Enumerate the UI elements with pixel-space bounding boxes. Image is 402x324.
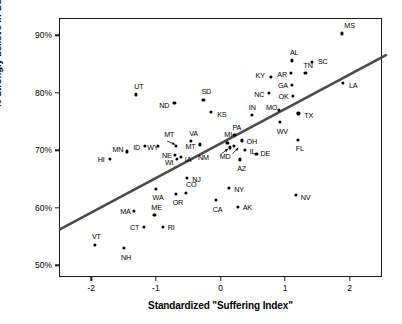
data-point-label: KS xyxy=(217,111,226,118)
x-tick-mark xyxy=(91,277,92,281)
data-point-label: IN xyxy=(249,104,256,111)
data-point-label: WV xyxy=(277,128,288,135)
data-point-label: MN xyxy=(113,146,124,153)
data-point-label: SC xyxy=(318,58,328,65)
data-point-label: MA xyxy=(120,208,130,215)
data-point-label: NH xyxy=(121,254,131,261)
y-tick-label: 90% xyxy=(26,30,52,40)
data-point-label: MT xyxy=(186,143,196,150)
data-point-label: WY xyxy=(147,144,158,151)
data-point-label: MT xyxy=(164,131,174,138)
data-point-label: PA xyxy=(232,124,241,131)
data-point-label: LA xyxy=(349,82,358,89)
y-tick-label: 50% xyxy=(26,260,52,270)
data-point-label: GA xyxy=(278,82,288,89)
x-tick-label: 2 xyxy=(347,283,352,293)
data-point-label: IA xyxy=(185,156,192,163)
data-point-label: KY xyxy=(256,72,265,79)
y-tick-label: 70% xyxy=(26,145,52,155)
data-point-label: OH xyxy=(247,138,257,145)
trendline-path xyxy=(59,55,387,230)
data-point-label: AK xyxy=(243,204,252,211)
plot-area: MSALSCARTNKYGALANCOKSDUTNDMOKSTXINWVPAVA… xyxy=(60,19,381,276)
data-point-label: CO xyxy=(186,181,196,188)
data-point-label: NM xyxy=(198,154,209,161)
data-point-label: WI xyxy=(165,159,173,166)
data-point-label: UT xyxy=(134,83,143,90)
data-point-label: NC xyxy=(254,91,264,98)
data-point-label: HI xyxy=(98,156,105,163)
x-tick-label: 1 xyxy=(283,283,288,293)
x-tick-mark xyxy=(155,277,156,281)
x-axis-title: Standardized "Suffering Index" xyxy=(59,300,382,311)
x-tick-label: -1 xyxy=(152,283,160,293)
data-point-label: MO xyxy=(266,104,277,111)
data-point-label: CT xyxy=(130,224,139,231)
x-tick-mark xyxy=(220,277,221,281)
data-point-label: TN xyxy=(303,62,312,69)
data-point-label: NY xyxy=(234,186,244,193)
data-point-label: CA xyxy=(213,206,223,213)
data-point-label: SD xyxy=(201,88,211,95)
data-point-label: RI xyxy=(168,224,175,231)
y-axis-title: % Strongly believe in God xyxy=(0,0,3,108)
data-point-label: OK xyxy=(279,93,289,100)
data-point-label: VT xyxy=(92,233,101,240)
plot-frame: MSALSCARTNKYGALANCOKSDUTNDMOKSTXINWVPAVA… xyxy=(59,18,382,277)
data-point-label: AL xyxy=(290,49,299,56)
data-point-label: MD xyxy=(220,153,231,160)
data-point-label: ND xyxy=(159,102,169,109)
data-point-label: DE xyxy=(260,150,270,157)
x-tick-mark xyxy=(349,277,350,281)
y-tick-label: 60% xyxy=(26,203,52,213)
trendline xyxy=(60,19,383,278)
data-point-label: AZ xyxy=(237,165,246,172)
data-point-label: MI xyxy=(224,131,232,138)
data-point-label: VA xyxy=(189,130,198,137)
data-point-label: OR xyxy=(173,199,183,206)
data-point-label: AR xyxy=(277,71,287,78)
data-point-label: MS xyxy=(344,22,354,29)
data-point-label: FL xyxy=(296,145,304,152)
data-point-label: ME xyxy=(151,204,161,211)
x-tick-mark xyxy=(284,277,285,281)
x-tick-label: 0 xyxy=(218,283,223,293)
y-tick-label: 80% xyxy=(26,88,52,98)
data-point-label: NV xyxy=(301,194,311,201)
scatter-chart: % Strongly believe in God 50%60%70%80%90… xyxy=(0,0,402,324)
data-point-label: TX xyxy=(304,112,313,119)
data-point-label: ID xyxy=(133,144,140,151)
x-tick-label: -2 xyxy=(88,283,96,293)
data-point-label: WA xyxy=(153,194,164,201)
